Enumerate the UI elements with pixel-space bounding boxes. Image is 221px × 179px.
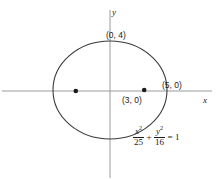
focus-right-point <box>142 88 147 93</box>
y-axis-label: y <box>112 8 116 17</box>
fraction-x-squared-over-25: x2 25 <box>133 127 144 148</box>
denominator-16: 16 <box>154 138 165 148</box>
fraction-y-squared-over-16: y2 16 <box>154 127 165 148</box>
x-axis-label: x <box>203 96 207 105</box>
numerator-y-squared: y2 <box>155 127 164 137</box>
denominator-25: 25 <box>133 138 144 148</box>
top-vertex-label: (0, 4) <box>106 31 126 40</box>
ellipse-equation: x2 25 + y2 16 = 1 <box>132 127 179 148</box>
right-vertex-label: (5, 0) <box>162 81 182 90</box>
numerator-x-squared: x2 <box>134 127 143 137</box>
exponent-two-y: 2 <box>160 125 163 131</box>
plus-operator: + <box>145 133 153 142</box>
focus-left-point <box>74 89 79 94</box>
ellipse-figure: y x (0, 4) (5, 0) (3, 0) x2 25 + y2 16 =… <box>0 0 221 179</box>
exponent-two-x: 2 <box>139 125 142 131</box>
graph-canvas <box>0 0 221 179</box>
equals-one: = 1 <box>166 133 179 142</box>
focus-right-label: (3, 0) <box>122 96 142 105</box>
